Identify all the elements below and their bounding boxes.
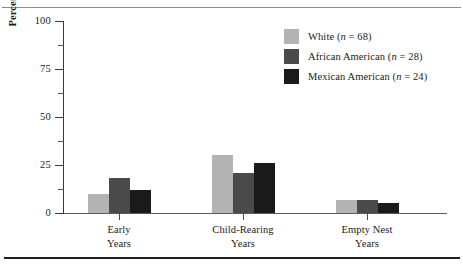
bar-child-rearing-white	[212, 155, 233, 213]
legend-label-mexican-american: Mexican American (n = 24)	[308, 69, 427, 84]
x-tick-child-rearing-years	[243, 213, 244, 220]
bar-early-white	[88, 194, 109, 213]
bar-child-rearing-african-american	[233, 173, 254, 213]
legend-label-white: White (n = 68)	[308, 29, 372, 44]
y-tick-label-25: 25	[40, 158, 51, 171]
legend-label-african-american-n-value: = 28)	[397, 51, 423, 62]
bar-child-rearing-mexican-american	[254, 163, 275, 213]
y-tick-label-75: 75	[40, 62, 51, 75]
y-tick-25: 25	[55, 165, 64, 166]
legend-swatch-white	[284, 29, 299, 44]
legend-label-african-american: African American (n = 28)	[308, 49, 423, 64]
x-tick-empty-nest-years	[367, 213, 368, 220]
y-tick-100: 100	[55, 21, 64, 22]
x-axis-label-child-rearing-years-line1: Child-Rearing	[183, 223, 303, 237]
x-axis-label-child-rearing-years: Child-Rearing Years	[183, 223, 303, 250]
legend-label-white-n-value: = 68)	[346, 31, 372, 42]
y-minor-tick-12	[58, 189, 64, 190]
legend-label-mexican-american-n-value: = 24)	[401, 71, 427, 82]
x-axis-label-early-years-line1: Early	[69, 223, 169, 237]
top-divider-rule	[2, 7, 461, 8]
y-tick-50: 50	[55, 117, 64, 118]
figure-container: Percentage Reporting Major Conflicts 100…	[0, 0, 463, 272]
x-axis-line	[55, 213, 447, 214]
legend-label-white-name: White	[308, 31, 334, 42]
bar-empty-nest-mexican-american	[378, 203, 399, 213]
bar-early-african-american	[109, 178, 130, 213]
legend-label-african-american-name: African American	[308, 51, 385, 62]
bar-early-mexican-american	[130, 190, 151, 213]
y-minor-tick-37	[58, 141, 64, 142]
bar-empty-nest-african-american	[357, 200, 378, 213]
y-tick-75: 75	[55, 69, 64, 70]
y-tick-label-0: 0	[46, 206, 51, 219]
y-tick-0: 0	[55, 213, 64, 214]
y-tick-label-50: 50	[40, 110, 51, 123]
x-axis-label-empty-nest-years: Empty Nest Years	[313, 223, 421, 250]
legend-swatch-mexican-american	[284, 69, 299, 84]
x-axis-label-empty-nest-years-line2: Years	[313, 237, 421, 251]
y-minor-tick-62	[58, 93, 64, 94]
y-tick-label-100: 100	[35, 14, 51, 27]
x-axis-label-child-rearing-years-line2: Years	[183, 237, 303, 251]
legend-label-mexican-american-name: Mexican American	[308, 71, 390, 82]
bottom-divider-rule	[4, 257, 460, 259]
legend-item-african-american: African American (n = 28)	[284, 48, 427, 65]
x-axis-label-early-years: Early Years	[69, 223, 169, 250]
legend-item-white: White (n = 68)	[284, 28, 427, 45]
x-tick-early-years	[119, 213, 120, 220]
x-axis-label-empty-nest-years-line1: Empty Nest	[313, 223, 421, 237]
y-axis-title: Percentage Reporting Major Conflicts	[6, 0, 20, 35]
legend-swatch-african-american	[284, 49, 299, 64]
x-axis-label-early-years-line2: Years	[69, 237, 169, 251]
bar-empty-nest-white	[336, 200, 357, 213]
legend-item-mexican-american: Mexican American (n = 24)	[284, 68, 427, 85]
y-minor-tick-87	[58, 45, 64, 46]
chart-legend: White (n = 68) African American (n = 28)…	[284, 28, 427, 88]
